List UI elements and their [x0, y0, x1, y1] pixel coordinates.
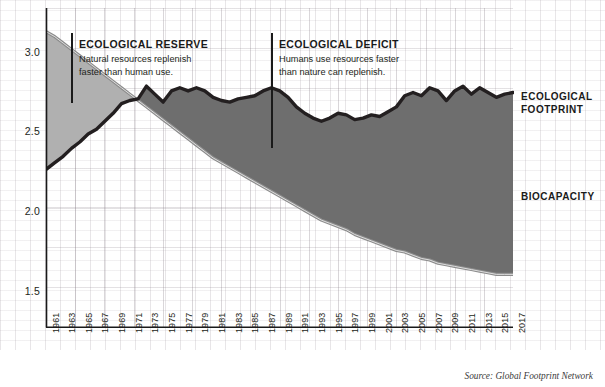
x-tick-1973: 1973 — [150, 313, 160, 333]
x-tick-1961: 1961 — [51, 313, 61, 333]
x-tick-1979: 1979 — [200, 313, 210, 333]
legend-biocapacity: BIOCAPACITY — [521, 190, 595, 203]
deficit-annotation-rule — [271, 33, 273, 148]
x-tick-2007: 2007 — [434, 313, 444, 333]
reserve-annotation-body: Natural resources replenish faster than … — [79, 53, 239, 78]
chart-container: 1.52.02.53.0 196119631965196719691971197… — [0, 0, 605, 387]
reserve-annotation: ECOLOGICAL RESERVE Natural resources rep… — [79, 38, 249, 78]
y-tick-3.0: 3.0 — [14, 46, 40, 58]
x-tick-1983: 1983 — [234, 313, 244, 333]
x-tick-1997: 1997 — [350, 313, 360, 333]
x-tick-2017: 2017 — [517, 313, 527, 333]
x-tick-1963: 1963 — [67, 313, 77, 333]
x-tick-2013: 2013 — [484, 313, 494, 333]
x-tick-2001: 2001 — [384, 313, 394, 333]
reserve-annotation-rule — [71, 33, 73, 103]
x-tick-1989: 1989 — [284, 313, 294, 333]
deficit-annotation-title: ECOLOGICAL DEFICIT — [279, 38, 449, 50]
x-tick-2005: 2005 — [417, 313, 427, 333]
y-tick-2.0: 2.0 — [14, 205, 40, 217]
x-tick-1999: 1999 — [367, 313, 377, 333]
deficit-annotation-line2: than nature can replenish. — [279, 67, 385, 77]
reserve-annotation-line1: Natural resources replenish — [79, 54, 191, 64]
x-tick-1991: 1991 — [300, 313, 310, 333]
x-tick-1969: 1969 — [117, 313, 127, 333]
x-tick-2009: 2009 — [450, 313, 460, 333]
x-tick-1967: 1967 — [100, 313, 110, 333]
deficit-annotation: ECOLOGICAL DEFICIT Humans use resources … — [279, 38, 449, 78]
x-tick-1995: 1995 — [334, 313, 344, 333]
source-caption: Source: Global Footprint Network — [464, 371, 593, 381]
y-tick-1.5: 1.5 — [14, 285, 40, 297]
reserve-annotation-title: ECOLOGICAL RESERVE — [79, 38, 249, 50]
x-tick-1975: 1975 — [167, 313, 177, 333]
legend-footprint-line1: ECOLOGICAL — [521, 91, 593, 102]
ecological-deficit-area — [136, 86, 513, 274]
x-tick-2015: 2015 — [500, 313, 510, 333]
x-tick-1981: 1981 — [217, 313, 227, 333]
x-tick-1977: 1977 — [184, 313, 194, 333]
x-tick-1987: 1987 — [267, 313, 277, 333]
x-tick-1971: 1971 — [134, 313, 144, 333]
deficit-annotation-line1: Humans use resources faster — [279, 54, 399, 64]
x-tick-1985: 1985 — [250, 313, 260, 333]
legend-ecological-footprint: ECOLOGICAL FOOTPRINT — [521, 90, 593, 116]
x-tick-2003: 2003 — [400, 313, 410, 333]
legend-footprint-line2: FOOTPRINT — [521, 104, 583, 115]
x-tick-1993: 1993 — [317, 313, 327, 333]
reserve-annotation-line2: faster than human use. — [79, 67, 173, 77]
x-tick-2011: 2011 — [467, 313, 477, 333]
deficit-annotation-body: Humans use resources faster than nature … — [279, 53, 439, 78]
x-tick-1965: 1965 — [84, 313, 94, 333]
y-tick-2.5: 2.5 — [14, 125, 40, 137]
